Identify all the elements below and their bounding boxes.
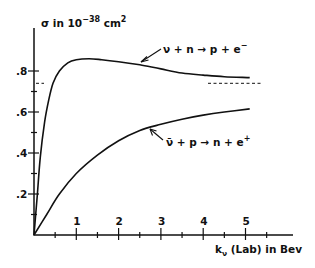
x-axis-label: kν (Lab) in Bev [215, 243, 302, 258]
plot-area: 12345.2.4.6.8 σ in 10−38 cm2 kν (Lab) in… [0, 0, 315, 268]
y-axis-label: σ in 10−38 cm2 [41, 15, 126, 29]
lower-curve-annotation: ν̄ + p → n + e+ [166, 134, 250, 148]
x-tick-label: 4 [200, 215, 207, 227]
antineutrino-curve [34, 109, 250, 235]
y-tick-label: .2 [16, 188, 27, 200]
axis-ticks: 12345.2.4.6.8 [16, 65, 267, 240]
x-tick-label: 2 [116, 215, 123, 227]
y-tick-label: .8 [16, 65, 27, 77]
cross-section-chart: 12345.2.4.6.8 σ in 10−38 cm2 kν (Lab) in… [0, 0, 315, 268]
y-tick-label: .4 [16, 147, 27, 159]
axes [34, 28, 293, 235]
y-tick-label: .6 [16, 106, 27, 118]
x-tick-label: 3 [158, 215, 165, 227]
axis-lines [34, 28, 293, 235]
upper-curve-annotation: ν + n → p + e− [163, 41, 247, 55]
x-tick-label: 5 [243, 215, 250, 227]
x-tick-label: 1 [73, 215, 80, 227]
upper-annotation-arrow [141, 49, 161, 62]
